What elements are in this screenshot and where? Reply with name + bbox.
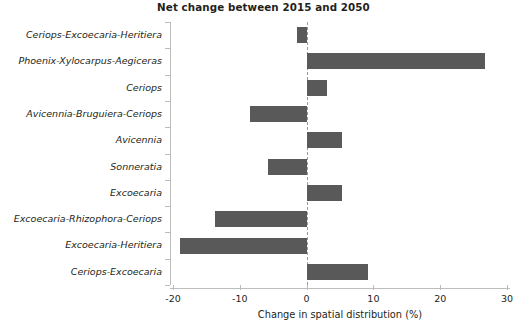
bar — [250, 106, 307, 122]
bar — [180, 238, 307, 254]
bar-row — [173, 259, 507, 285]
x-axis-tick — [307, 285, 308, 290]
bar — [268, 159, 307, 175]
x-axis-tick-label: 30 — [501, 293, 513, 304]
y-axis-tick — [165, 101, 170, 102]
y-axis-label: Avicennia — [116, 127, 162, 153]
y-axis-label: Excoecaria-Rhizophora-Ceriops — [14, 206, 162, 232]
y-axis-category-labels: Ceriops-Excoecaria-HeritieraPhoenix-Xylo… — [0, 22, 168, 285]
x-axis-tick — [173, 285, 174, 290]
bar-row — [173, 180, 507, 206]
y-axis-tick — [165, 232, 170, 233]
y-axis-tick — [165, 127, 170, 128]
x-axis-tick-label: 0 — [304, 293, 310, 304]
y-axis-tick — [165, 154, 170, 155]
bar-row — [173, 22, 507, 48]
bar-row — [173, 101, 507, 127]
y-axis-label: Phoenix-Xylocarpus-Aegiceras — [19, 48, 163, 74]
bar — [307, 53, 485, 69]
x-axis-spine — [170, 288, 510, 289]
bar-row — [173, 48, 507, 74]
bar-row — [173, 206, 507, 232]
y-axis-label: Ceriops-Excoecaria — [71, 259, 162, 285]
bar-row — [173, 154, 507, 180]
bar-row — [173, 232, 507, 258]
y-axis-tick — [165, 180, 170, 181]
bar — [307, 264, 368, 280]
x-axis-tick — [507, 285, 508, 290]
x-axis-tick-label: 10 — [367, 293, 379, 304]
x-axis-tick — [440, 285, 441, 290]
net-change-bar-chart: Net change between 2015 and 2050 Ceriops… — [0, 0, 527, 333]
x-axis-tick — [373, 285, 374, 290]
y-axis-tick — [165, 75, 170, 76]
plot-area — [173, 22, 507, 285]
y-axis-tick — [165, 22, 170, 23]
y-axis-tick — [165, 48, 170, 49]
y-axis-tick — [165, 206, 170, 207]
x-axis-tick-label: -10 — [232, 293, 248, 304]
y-axis-label: Excoecaria — [110, 180, 162, 206]
y-axis-label: Avicennia-Bruguiera-Ceriops — [26, 101, 162, 127]
bar — [297, 27, 306, 43]
bar — [307, 185, 342, 201]
bar — [215, 211, 307, 227]
bar-row — [173, 127, 507, 153]
x-axis-tick-label: 20 — [434, 293, 446, 304]
chart-title: Net change between 2015 and 2050 — [0, 1, 527, 13]
x-axis-tick — [240, 285, 241, 290]
y-axis-tick — [165, 259, 170, 260]
y-axis-spine — [170, 22, 171, 285]
x-axis-title: Change in spatial distribution (%) — [173, 309, 507, 320]
bar-row — [173, 75, 507, 101]
bar — [307, 132, 342, 148]
y-axis-tick — [165, 285, 170, 286]
y-axis-label: Excoecaria-Heritiera — [65, 232, 162, 258]
y-axis-label: Ceriops — [126, 75, 162, 101]
x-axis-tick-label: -20 — [165, 293, 181, 304]
y-axis-label: Sonneratia — [110, 154, 162, 180]
y-axis-label: Ceriops-Excoecaria-Heritiera — [26, 22, 162, 48]
bar — [307, 80, 327, 96]
